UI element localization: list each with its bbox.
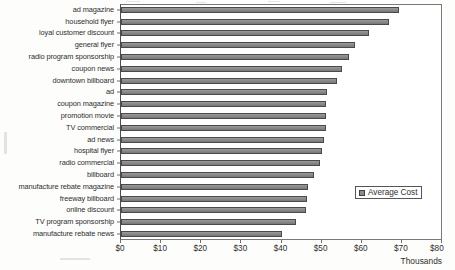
bar-chart-screenshot: ad magazinehousehold flyerloyal customer… xyxy=(0,0,455,270)
category-tick-mark xyxy=(117,222,120,223)
chart-row: TV program sponsorship xyxy=(0,216,455,228)
chart-row: online discount xyxy=(0,205,455,217)
category-label: coupon news xyxy=(72,65,114,73)
category-tick-mark xyxy=(117,198,120,199)
category-tick-mark xyxy=(117,9,120,10)
category-label: promotion movie xyxy=(61,112,114,120)
chart-row: radio commercial xyxy=(0,157,455,169)
x-axis-tick-mark xyxy=(321,240,322,243)
x-axis-tick-mark xyxy=(281,240,282,243)
x-axis-tick-label: $0 xyxy=(115,244,124,254)
category-label: general flyer xyxy=(75,41,114,49)
bar-average-cost xyxy=(121,184,308,190)
category-label: manufacture rebate news xyxy=(33,230,114,238)
category-label: radio program sponsorship xyxy=(29,53,114,61)
bar-average-cost xyxy=(121,66,342,72)
x-axis-tick-mark xyxy=(401,240,402,243)
x-axis-tick-mark xyxy=(120,240,121,243)
scan-artifact xyxy=(330,2,346,3)
bar-average-cost xyxy=(121,148,322,154)
bar-average-cost xyxy=(121,54,349,60)
chart-row: coupon news xyxy=(0,63,455,75)
chart-row: loyal customer discount xyxy=(0,28,455,40)
category-label: billboard xyxy=(87,171,114,179)
chart-row: ad news xyxy=(0,134,455,146)
category-tick-mark xyxy=(117,33,120,34)
x-axis-tick-label: $40 xyxy=(274,244,288,254)
x-axis-tick-label: $80 xyxy=(430,244,444,254)
x-axis-tick-label: $60 xyxy=(354,244,368,254)
bar-average-cost xyxy=(121,42,355,48)
category-tick-mark xyxy=(117,57,120,58)
category-label: manufacture rebate magazine xyxy=(19,183,115,191)
x-axis-tick-mark xyxy=(200,240,201,243)
x-axis-tick-label: $70 xyxy=(394,244,408,254)
bar-average-cost xyxy=(121,137,324,143)
category-label: household flyer xyxy=(65,18,114,26)
x-axis-tick-mark xyxy=(361,240,362,243)
chart-rows: ad magazinehousehold flyerloyal customer… xyxy=(0,4,455,240)
x-axis-tick-label: $30 xyxy=(234,244,248,254)
chart-row: household flyer xyxy=(0,16,455,28)
category-label: TV program sponsorship xyxy=(35,218,114,226)
bar-average-cost xyxy=(121,78,337,84)
x-axis-tick-mark xyxy=(160,240,161,243)
category-label: freeway billboard xyxy=(60,195,114,203)
bar-average-cost xyxy=(121,101,326,107)
bar-average-cost xyxy=(121,113,326,119)
axis-unit-label: Thousands xyxy=(401,256,442,266)
category-tick-mark xyxy=(117,104,120,105)
bar-average-cost xyxy=(121,172,314,178)
chart-row: hospital flyer xyxy=(0,146,455,158)
category-tick-mark xyxy=(117,175,120,176)
bar-average-cost xyxy=(121,231,282,237)
bar-average-cost xyxy=(121,125,326,131)
chart-legend: Average Cost xyxy=(355,186,422,199)
category-tick-mark xyxy=(117,163,120,164)
category-label: coupon magazine xyxy=(57,100,114,108)
category-tick-mark xyxy=(117,116,120,117)
x-axis: Thousands $0$10$20$30$40$50$60$70$80 xyxy=(120,240,442,270)
category-tick-mark xyxy=(117,21,120,22)
category-tick-mark xyxy=(117,234,120,235)
x-axis-tick-mark xyxy=(441,240,442,243)
category-tick-mark xyxy=(117,80,120,81)
category-tick-mark xyxy=(117,139,120,140)
bar-average-cost xyxy=(121,207,306,213)
category-label: loyal customer discount xyxy=(39,29,114,37)
chart-row: TV commercial xyxy=(0,122,455,134)
category-label: ad news xyxy=(87,136,114,144)
category-tick-mark xyxy=(117,45,120,46)
category-tick-mark xyxy=(117,127,120,128)
category-tick-mark xyxy=(117,92,120,93)
chart-row: billboard xyxy=(0,169,455,181)
bar-average-cost xyxy=(121,89,327,95)
chart-row: coupon magazine xyxy=(0,98,455,110)
chart-row: promotion movie xyxy=(0,110,455,122)
category-tick-mark xyxy=(117,68,120,69)
x-axis-tick-label: $20 xyxy=(193,244,207,254)
category-label: TV commercial xyxy=(66,124,114,132)
category-label: radio commercial xyxy=(59,159,114,167)
category-tick-mark xyxy=(117,186,120,187)
bar-average-cost xyxy=(121,196,307,202)
scan-artifact xyxy=(60,258,90,260)
chart-row: radio program sponsorship xyxy=(0,51,455,63)
bar-average-cost xyxy=(121,219,296,225)
scan-artifact xyxy=(268,1,280,2)
category-label: ad magazine xyxy=(73,6,114,14)
chart-row: general flyer xyxy=(0,39,455,51)
x-axis-tick-mark xyxy=(240,240,241,243)
bar-average-cost xyxy=(121,19,389,25)
chart-row: ad magazine xyxy=(0,4,455,16)
category-tick-mark xyxy=(117,151,120,152)
scan-artifact xyxy=(196,2,206,3)
category-label: downtown billboard xyxy=(53,77,114,85)
legend-label-average-cost: Average Cost xyxy=(368,188,417,197)
x-axis-tick-label: $10 xyxy=(153,244,167,254)
scan-artifact xyxy=(126,1,140,2)
chart-row: downtown billboard xyxy=(0,75,455,87)
category-label: ad xyxy=(106,88,114,96)
chart-row: manufacture rebate news xyxy=(0,228,455,240)
legend-swatch-average-cost xyxy=(359,190,365,196)
